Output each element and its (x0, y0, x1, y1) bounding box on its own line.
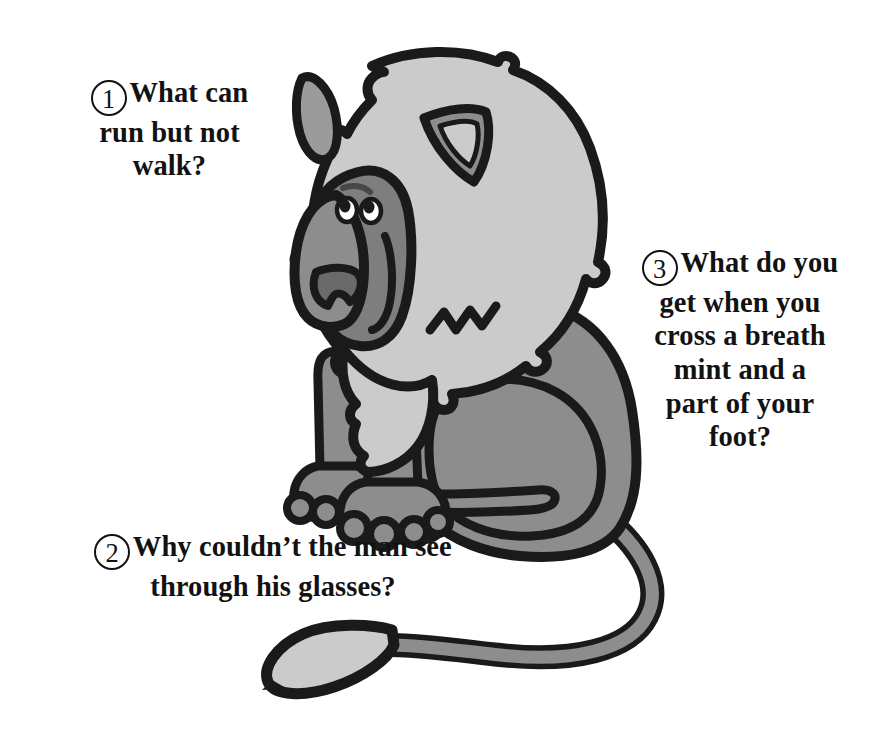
riddle-1: 1What can run but not walk? (62, 76, 277, 183)
toe-far-1 (287, 495, 313, 521)
tail-tuft (267, 625, 394, 693)
hind-foot (438, 490, 555, 513)
riddle-1-text-line-1: What can (129, 77, 248, 108)
riddle-3-text-line-1: What do you (680, 247, 838, 278)
riddle-3: 3What do you get when you cross a breath… (596, 246, 884, 454)
riddle-2: 2Why couldn’t the man see through his gl… (48, 530, 498, 603)
riddle-3-line-1: 3What do you (596, 246, 884, 286)
toe-far-2 (313, 499, 339, 525)
riddle-3-line-4: mint and a (596, 353, 884, 387)
riddle-3-line-2: get when you (596, 286, 884, 320)
riddle-2-number: 2 (94, 534, 130, 570)
riddle-1-line-2: run but not (62, 116, 277, 150)
riddle-3-line-5: part of your (596, 387, 884, 421)
riddle-1-line-3: walk? (62, 149, 277, 183)
riddle-3-number: 3 (642, 250, 678, 286)
riddle-2-line-1: 2Why couldn’t the man see (48, 530, 498, 570)
riddle-1-number: 1 (91, 80, 127, 116)
riddle-page: 1What can run but not walk? 2Why couldn’… (0, 0, 891, 741)
riddle-3-line-6: foot? (596, 420, 884, 454)
riddle-1-line-1: 1What can (62, 76, 277, 116)
riddle-3-line-3: cross a breath (596, 319, 884, 353)
ear-near-shape (296, 77, 337, 160)
riddle-2-line-2: through his glasses? (48, 570, 498, 604)
ear-near (296, 77, 337, 160)
riddle-2-text-line-1: Why couldn’t the man see (133, 531, 452, 562)
pupil-right (364, 201, 375, 214)
pupil-left (340, 200, 351, 213)
